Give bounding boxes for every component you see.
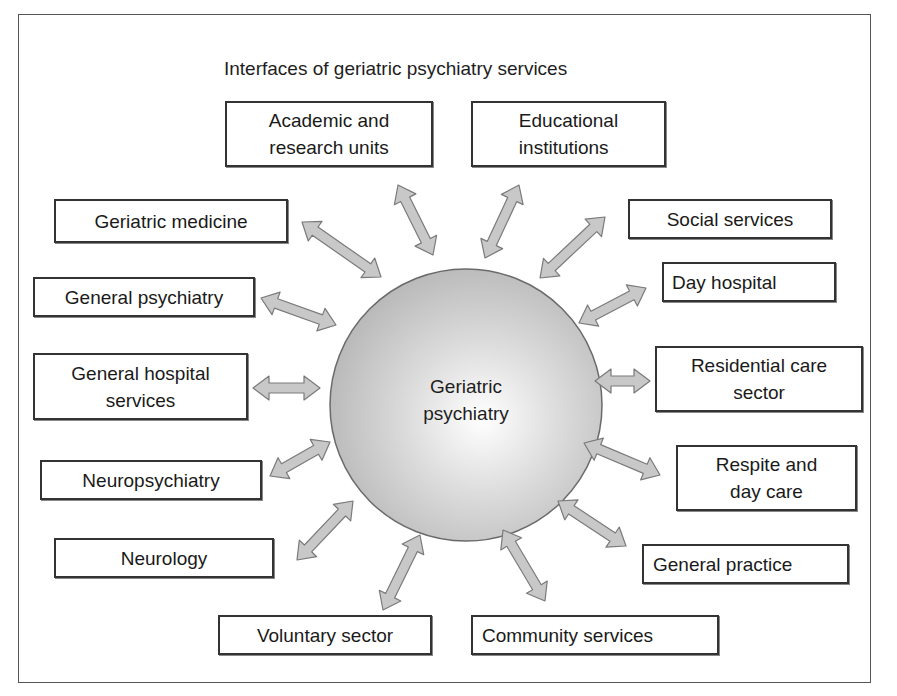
node-label: Educational institutions: [519, 107, 618, 161]
node-label: Day hospital: [672, 269, 777, 296]
center-label: Geriatric psychiatry: [366, 373, 566, 427]
node-label: Neuropsychiatry: [82, 467, 219, 494]
double-arrow-respite: [584, 438, 660, 480]
double-arrow-social-services: [540, 217, 605, 278]
node-label: Respite and day care: [716, 451, 817, 505]
node-label: General psychiatry: [65, 284, 223, 311]
node-voluntary: Voluntary sector: [218, 615, 432, 655]
double-arrow-general-psychiatry: [261, 292, 336, 331]
node-day-hospital: Day hospital: [662, 262, 836, 302]
double-arrow-academic: [394, 185, 436, 255]
node-label: General practice: [653, 551, 792, 578]
node-general-practice: General practice: [642, 544, 849, 584]
node-academic: Academic and research units: [225, 101, 433, 167]
double-arrow-general-hospital: [253, 376, 320, 400]
node-respite: Respite and day care: [676, 445, 857, 511]
double-arrow-neurology: [297, 501, 353, 560]
node-general-hospital: General hospital services: [33, 353, 248, 420]
double-arrow-general-practice: [558, 500, 626, 547]
node-label: Geriatric medicine: [94, 208, 247, 235]
node-label: Community services: [482, 622, 653, 649]
node-label: Residential care sector: [691, 352, 827, 406]
node-label: Neurology: [121, 545, 208, 572]
double-arrow-educational: [481, 185, 523, 258]
node-label: General hospital services: [71, 360, 209, 414]
node-residential-care: Residential care sector: [655, 346, 863, 412]
node-educational: Educational institutions: [471, 101, 666, 167]
double-arrow-community: [501, 530, 547, 601]
double-arrow-day-hospital: [579, 285, 646, 326]
node-geriatric-medicine: Geriatric medicine: [54, 199, 288, 243]
node-label: Social services: [667, 206, 794, 233]
double-arrow-residential-care: [595, 369, 650, 393]
node-neuropsychiatry: Neuropsychiatry: [40, 460, 262, 500]
node-general-psychiatry: General psychiatry: [33, 277, 255, 317]
node-community: Community services: [471, 615, 719, 655]
double-arrow-voluntary: [379, 535, 423, 610]
double-arrow-geriatric-medicine: [302, 221, 381, 277]
node-label: Voluntary sector: [257, 622, 393, 649]
node-label: Academic and research units: [269, 107, 389, 161]
double-arrow-neuropsychiatry: [270, 439, 330, 478]
node-neurology: Neurology: [54, 538, 274, 578]
node-social-services: Social services: [628, 199, 832, 239]
